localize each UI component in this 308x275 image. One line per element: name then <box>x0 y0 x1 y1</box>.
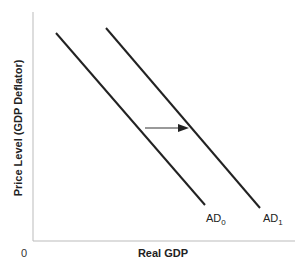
x-axis-label: Real GDP <box>138 247 188 259</box>
shift-arrow-head-icon <box>178 124 189 132</box>
ad0-label: AD0 <box>206 212 226 227</box>
ad-shift-chart: AD0 AD1 0 Real GDP Price Level (GDP Defl… <box>0 0 308 275</box>
ad1-label: AD1 <box>263 212 283 227</box>
y-axis-label: Price Level (GDP Deflator) <box>12 59 24 196</box>
origin-label: 0 <box>21 247 27 259</box>
